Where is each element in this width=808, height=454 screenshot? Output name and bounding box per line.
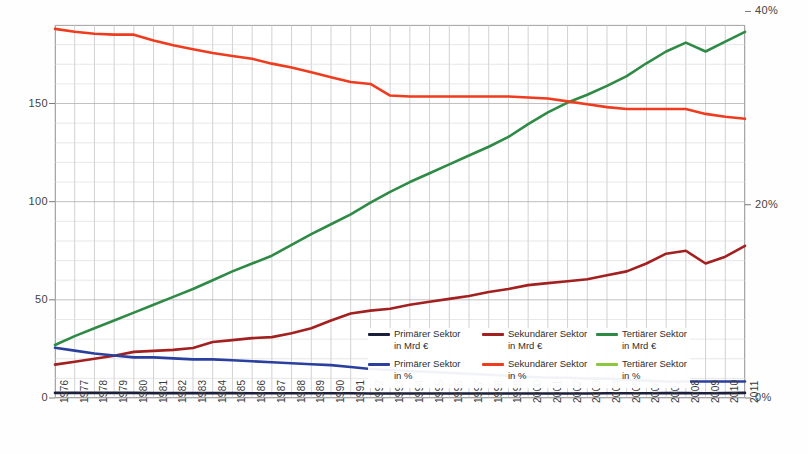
x-axis-tick-label: 1982 xyxy=(177,380,188,403)
x-axis-tick-label: 1976 xyxy=(59,380,70,403)
legend-color-swatch xyxy=(368,363,390,366)
legend-item[interactable]: Primärer Sektor in % xyxy=(368,358,482,388)
series-line-2 xyxy=(55,32,745,345)
legend-item[interactable]: Tertiärer Sektor in % xyxy=(596,358,690,388)
series-line-4 xyxy=(55,29,745,119)
legend-color-swatch xyxy=(596,333,618,336)
x-axis-tick-label: 1984 xyxy=(217,380,228,403)
y-axis-left-tick-label: 100 xyxy=(14,195,48,207)
legend-color-swatch xyxy=(596,363,618,366)
y-axis-left-tick-label: 150 xyxy=(14,97,48,109)
x-axis-tick-label: 2008 xyxy=(690,380,701,403)
x-axis-tick-label: 1978 xyxy=(98,380,109,403)
y-axis-right-tick-label: 0% xyxy=(755,391,795,403)
legend-item-label: Primärer Sektor in % xyxy=(394,358,461,381)
legend-item-label: Sekundärer Sektor in Mrd € xyxy=(508,328,587,351)
x-axis-tick-label: 1989 xyxy=(315,380,326,403)
x-axis-tick-label: 1981 xyxy=(158,380,169,403)
y-axis-left-tick-label: 0 xyxy=(14,391,48,403)
y-axis-right-tick-label: 20% xyxy=(755,198,795,210)
legend-item-label: Tertiärer Sektor in % xyxy=(622,358,687,381)
x-axis-tick-label: 1985 xyxy=(236,380,247,403)
y-axis-left-tick-label: 50 xyxy=(14,293,48,305)
x-axis-tick-label: 1987 xyxy=(276,380,287,403)
legend-item[interactable]: Sekundärer Sektor in Mrd € xyxy=(482,328,596,358)
x-axis-tick-label: 1990 xyxy=(335,380,346,403)
x-axis-tick-label: 2009 xyxy=(710,380,721,403)
chart-legend: Primärer Sektor in Mrd €Sekundärer Sekto… xyxy=(368,328,690,388)
legend-item-label: Primärer Sektor in Mrd € xyxy=(394,328,461,351)
legend-item[interactable]: Sekundärer Sektor in % xyxy=(482,358,596,388)
x-axis-tick-label: 2010 xyxy=(729,380,740,403)
legend-item-label: Sekundärer Sektor in % xyxy=(508,358,587,381)
x-axis-tick-label: 1983 xyxy=(197,380,208,403)
x-axis-tick-label: 1988 xyxy=(296,380,307,403)
legend-item[interactable]: Primärer Sektor in Mrd € xyxy=(368,328,482,358)
x-axis-tick-label: 1991 xyxy=(355,380,366,403)
legend-color-swatch xyxy=(482,363,504,366)
y-axis-right-tick-label: 40% xyxy=(755,4,795,16)
x-axis-tick-label: 1977 xyxy=(79,380,90,403)
x-axis-tick-label: 2011 xyxy=(749,380,760,403)
legend-item-label: Tertiärer Sektor in Mrd € xyxy=(622,328,687,351)
x-axis-tick-label: 1980 xyxy=(138,380,149,403)
legend-color-swatch xyxy=(368,333,390,336)
x-axis-tick-label: 1986 xyxy=(256,380,267,403)
chart-container: 050100150 0%20%40%60% 197619771978197919… xyxy=(0,0,808,454)
x-axis-tick-label: 1979 xyxy=(118,380,129,403)
legend-color-swatch xyxy=(482,333,504,336)
legend-item[interactable]: Tertiärer Sektor in Mrd € xyxy=(596,328,690,358)
